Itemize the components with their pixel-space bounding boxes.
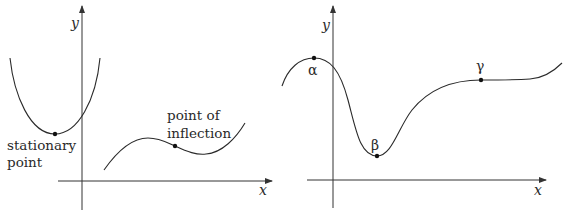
figure: y x stationary point point of inflection…: [0, 0, 564, 214]
inflection-label-line2: inflection: [167, 125, 231, 141]
right-y-label: y: [321, 17, 331, 33]
beta-label: β: [371, 137, 379, 153]
right-x-label: x: [534, 182, 542, 198]
stationary-label-line2: point: [7, 154, 43, 170]
right-diagram: y x α β γ: [282, 6, 562, 208]
beta-point-dot: [375, 154, 379, 158]
alpha-point-dot: [312, 56, 316, 60]
inflection-point-dot: [173, 144, 177, 148]
left-diagram: y x stationary point point of inflection: [7, 6, 272, 210]
right-curve: [282, 58, 562, 156]
stationary-label-line1: stationary: [7, 137, 76, 153]
gamma-label: γ: [476, 58, 484, 74]
gamma-point-dot: [479, 78, 483, 82]
left-y-label: y: [70, 15, 80, 31]
alpha-label: α: [308, 62, 318, 78]
inflection-label-line1: point of: [167, 107, 221, 123]
parabola-curve: [10, 58, 100, 134]
left-x-label: x: [259, 182, 267, 198]
stationary-point-dot: [53, 132, 57, 136]
